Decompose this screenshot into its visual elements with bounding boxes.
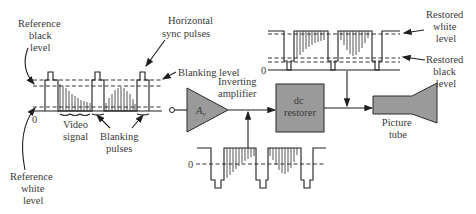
label-reference-white: Reference white level — [10, 171, 55, 206]
label-zero-restored: 0 — [261, 65, 266, 76]
inverted-hatching-2 — [270, 148, 297, 174]
label-restored-black: Restored black level — [426, 54, 466, 89]
input-video-waveform — [33, 72, 162, 116]
label-reference-black: Reference black level — [18, 18, 63, 53]
restored-hatching-1 — [297, 31, 324, 58]
label-inverting-amplifier: Inverting amplifier — [218, 76, 259, 99]
inverted-waveform — [196, 148, 326, 188]
inverted-hatching-1 — [227, 148, 254, 178]
label-horizontal-sync-pulses: Horizontal sync pulses — [162, 15, 216, 39]
label-zero-input: 0 — [32, 114, 37, 125]
label-video-signal: Video signal — [63, 119, 91, 142]
restored-hatching-2 — [341, 31, 368, 56]
dc-restorer-diagram: Reference black level Horizontal sync pu… — [0, 0, 476, 214]
label-restored-white: Restored white level — [426, 9, 466, 44]
label-picture-tube: Picture tube — [382, 117, 414, 140]
label-zero-inverted: 0 — [188, 159, 193, 170]
restored-waveform — [268, 31, 400, 70]
label-blanking-pulses: Blanking pulses — [100, 131, 141, 154]
dc-restorer-block: dc restorer — [276, 84, 324, 132]
